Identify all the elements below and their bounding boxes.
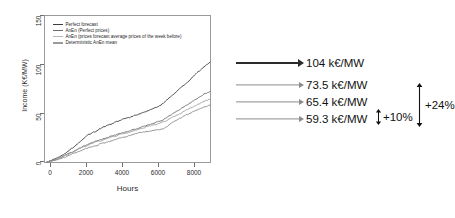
legend-label-perfect-forecast: Perfect forecast <box>66 22 98 27</box>
arrow-icon-104 <box>236 58 304 68</box>
annotation-row-654: 65.4 k€/MW <box>236 94 367 110</box>
y-tick-100: 100 <box>35 65 42 79</box>
legend-swatch-anen-perfect-prices <box>53 30 63 31</box>
arrow-icon-593 <box>236 114 304 124</box>
arrow-icon-654 <box>236 97 304 107</box>
legend-item-deterministic-anen-mean: Deterministic AnEn mean <box>53 40 181 45</box>
plot-area: Perfect forecast AnEn (Perfect prices) A… <box>44 15 211 163</box>
legend-label-anen-perfect-prices: AnEn (Perfect prices) <box>66 28 110 33</box>
bracket-label-24-percent: +24% <box>425 99 455 111</box>
legend-swatch-deterministic-anen-mean <box>53 42 63 43</box>
legend-label-deterministic-anen-mean: Deterministic AnEn mean <box>66 40 118 45</box>
annotation-value-593: 59.3 k€/MW <box>306 113 367 125</box>
annotation-row-735: 73.5 k€/MW <box>236 77 367 93</box>
x-tick-2000: 2000 <box>72 169 100 176</box>
legend-item-anen-week-before: AnEn (prices forecast average prices of … <box>53 34 181 39</box>
x-axis-label: Hours <box>44 184 211 193</box>
bracket-10-percent: +10% <box>375 109 413 125</box>
double-arrow-icon-24-percent <box>415 83 424 127</box>
x-tick-8000: 8000 <box>180 169 208 176</box>
legend-item-anen-perfect-prices: AnEn (Perfect prices) <box>53 28 181 33</box>
bracket-24-percent: +24% <box>415 83 455 127</box>
x-tickmark-0 <box>50 163 51 167</box>
arrow-icon-735 <box>236 80 304 90</box>
x-tickmark-8000 <box>194 163 195 167</box>
x-tickmark-2000 <box>86 163 87 167</box>
series-line-1 <box>47 91 210 162</box>
double-arrow-svg-10 <box>375 109 382 125</box>
annotation-value-735: 73.5 k€/MW <box>306 79 367 91</box>
double-arrow-svg-24 <box>415 83 424 127</box>
annotation-row-104: 104 k€/MW <box>236 55 364 71</box>
series-line-2 <box>47 99 210 162</box>
x-tickmark-6000 <box>158 163 159 167</box>
annotation-value-104: 104 k€/MW <box>306 57 364 69</box>
legend-label-anen-week-before: AnEn (prices forecast average prices of … <box>66 34 182 39</box>
x-tick-4000: 4000 <box>108 169 136 176</box>
x-tickmark-4000 <box>122 163 123 167</box>
double-arrow-icon-10-percent <box>375 109 382 125</box>
x-tick-6000: 6000 <box>144 169 172 176</box>
y-axis-label: Income (K€/MW) <box>21 46 28 126</box>
annotation-block: 104 k€/MW 73.5 k€/MW 65.4 k€/MW 59.3 k€/… <box>236 55 449 165</box>
legend-swatch-anen-week-before <box>53 36 63 37</box>
series-line-0 <box>47 62 210 162</box>
annotation-value-654: 65.4 k€/MW <box>306 96 367 108</box>
legend-item-perfect-forecast: Perfect forecast <box>53 22 181 27</box>
annotation-row-593: 59.3 k€/MW <box>236 111 367 127</box>
x-tick-0: 0 <box>36 169 64 176</box>
series-line-3 <box>47 105 210 162</box>
legend: Perfect forecast AnEn (Perfect prices) A… <box>53 22 181 46</box>
y-tick-150: 150 <box>35 16 42 30</box>
bracket-label-10-percent: +10% <box>383 111 413 123</box>
legend-swatch-perfect-forecast <box>53 24 63 25</box>
y-tick-50: 50 <box>35 114 42 128</box>
